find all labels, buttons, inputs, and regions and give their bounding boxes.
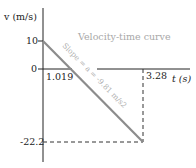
y-tick-label-10: 10 [26, 35, 38, 46]
y-axis-label: v (m/s) [3, 11, 37, 22]
velocity-line [43, 41, 143, 142]
y-tick-label-0: 0 [31, 63, 37, 74]
velocity-time-chart: v (m/s) 10 0 -22.2 1.019 3.28 t (s) Velo… [0, 0, 196, 168]
x-axis-label: t (s) [172, 73, 191, 84]
y-tick-label-bottom: -22.2 [20, 136, 44, 147]
x-label-end: 3.28 [146, 70, 167, 81]
chart-title: Velocity-time curve [77, 31, 171, 42]
x-label-crossing: 1.019 [46, 71, 73, 82]
